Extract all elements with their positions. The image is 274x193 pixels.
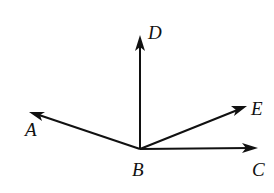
ray-ba — [29, 112, 140, 149]
label-a: A — [23, 119, 37, 140]
rays-diagram: D A E B C — [0, 0, 274, 193]
ray-bd — [135, 35, 145, 149]
label-d: D — [147, 22, 162, 43]
label-e: E — [250, 98, 263, 119]
ray-be — [140, 106, 247, 149]
label-b: B — [132, 159, 144, 180]
label-c: C — [252, 159, 265, 180]
ray-bc — [140, 143, 258, 153]
